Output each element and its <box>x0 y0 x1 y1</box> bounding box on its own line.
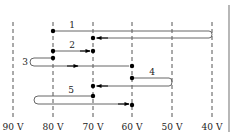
path-label-4: 4 <box>149 67 155 77</box>
dot-p3-end <box>130 64 134 68</box>
label-90v: 90 V <box>3 122 24 132</box>
dot-p5-end <box>130 103 134 107</box>
axis-labels: 90 V 80 V 70 V 60 V 50 V 40 V <box>3 122 223 132</box>
path-3 <box>30 58 129 66</box>
dot-p2-end <box>91 49 95 53</box>
dot-p4-start <box>130 76 134 80</box>
path-4 <box>96 78 172 86</box>
equipotential-diagram: 90 V 80 V 70 V 60 V 50 V 40 V 1 2 3 4 5 <box>0 0 239 140</box>
label-80v: 80 V <box>43 122 64 132</box>
dot-p1-end <box>91 36 95 40</box>
label-40v: 40 V <box>202 122 223 132</box>
path-label-3: 3 <box>22 57 28 67</box>
dot-p2-start <box>51 49 55 53</box>
path-label-2: 2 <box>69 40 75 50</box>
dot-p1-start <box>51 29 55 33</box>
label-50v: 50 V <box>162 122 183 132</box>
label-60v: 60 V <box>122 122 143 132</box>
path-5 <box>34 96 129 104</box>
label-70v: 70 V <box>83 122 104 132</box>
dot-p3-start <box>51 56 55 60</box>
dot-p5-start <box>91 94 95 98</box>
path-label-5: 5 <box>68 85 74 95</box>
dot-p4-end <box>91 84 95 88</box>
path-label-1: 1 <box>69 20 75 30</box>
